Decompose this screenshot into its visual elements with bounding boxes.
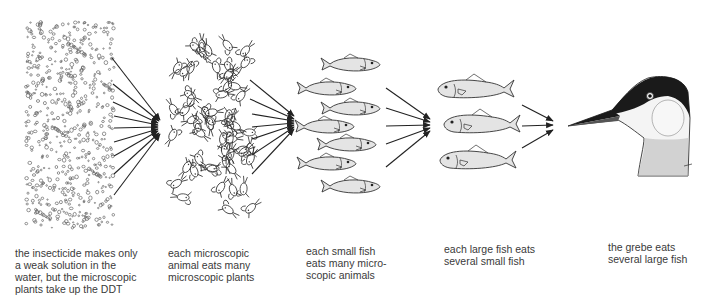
caption-large-fish: each large fish eats several small fish (444, 243, 535, 267)
caption-small-fish: each small fish eats many micro- scopic … (306, 245, 387, 281)
caption-microscopic-plants: the insecticide makes only a weak soluti… (15, 247, 138, 295)
caption-grebe: the grebe eats several large fish (608, 241, 687, 265)
microscopic-animals-field (161, 32, 264, 222)
large-fish-group (438, 74, 520, 169)
arrows-large-fish-to-grebe (522, 105, 553, 148)
arrows-small-fish-to-large-fish (386, 88, 430, 167)
grebe-illustration (568, 77, 692, 176)
arrows-plants-to-animals (112, 58, 160, 195)
small-fish-group (295, 54, 380, 193)
microscopic-plants-field (25, 21, 116, 229)
arrows-animals-to-small-fish (250, 80, 294, 174)
caption-microscopic-animals: each microscopic animal eats many micros… (168, 247, 254, 283)
